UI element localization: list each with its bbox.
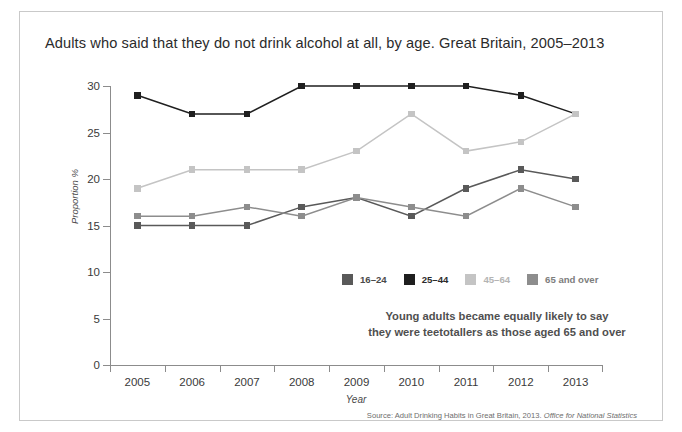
data-point xyxy=(189,166,196,173)
data-point xyxy=(518,139,525,146)
data-point xyxy=(134,185,141,192)
y-tick-label-0: 0 xyxy=(94,359,100,371)
y-tick-10 xyxy=(103,272,110,273)
data-point xyxy=(572,204,579,211)
data-point xyxy=(353,148,360,155)
legend-label: 16–24 xyxy=(360,274,387,285)
x-tick-end xyxy=(602,365,603,372)
x-tick-2006 xyxy=(165,365,166,372)
data-point xyxy=(353,194,360,201)
chart-source: Source: Adult Drinking Habits in Great B… xyxy=(367,411,637,420)
source-prefix: Source: Adult Drinking Habits in Great B… xyxy=(367,411,542,420)
legend-item-3[interactable]: 65 and over xyxy=(527,274,598,285)
series-line xyxy=(137,86,575,114)
legend-swatch-icon xyxy=(342,274,353,285)
x-axis-line xyxy=(110,365,603,366)
series-line xyxy=(137,188,575,216)
x-tick-2008 xyxy=(274,365,275,372)
x-tick-2011 xyxy=(439,365,440,372)
data-point xyxy=(408,204,415,211)
x-tick-2013 xyxy=(548,365,549,372)
y-tick-0 xyxy=(103,365,110,366)
data-point xyxy=(463,148,470,155)
data-point xyxy=(518,92,525,99)
legend-swatch-icon xyxy=(527,274,538,285)
data-point xyxy=(408,213,415,220)
x-tick-label-2005: 2005 xyxy=(125,376,151,388)
data-point xyxy=(244,204,251,211)
x-tick-2012 xyxy=(493,365,494,372)
data-point xyxy=(189,111,196,118)
data-point xyxy=(298,213,305,220)
data-point xyxy=(298,204,305,211)
annotation-line-2: they were teetotallers as those aged 65 … xyxy=(368,325,625,341)
data-point xyxy=(463,185,470,192)
legend-label: 65 and over xyxy=(545,274,598,285)
legend-item-1[interactable]: 25–44 xyxy=(404,274,449,285)
data-point xyxy=(518,185,525,192)
x-tick-label-2007: 2007 xyxy=(234,376,260,388)
data-point xyxy=(463,213,470,220)
data-point xyxy=(189,213,196,220)
series-2 xyxy=(134,111,579,192)
legend-swatch-icon xyxy=(404,274,415,285)
x-tick-label-2012: 2012 xyxy=(508,376,534,388)
data-point xyxy=(518,166,525,173)
y-tick-label-25: 25 xyxy=(87,127,100,139)
chart-legend: 16–2425–4445–6465 and over xyxy=(342,274,598,285)
y-tick-label-10: 10 xyxy=(87,266,100,278)
series-1 xyxy=(134,83,579,117)
y-tick-5 xyxy=(103,319,110,320)
data-point xyxy=(244,222,251,229)
x-tick-label-2009: 2009 xyxy=(344,376,370,388)
y-tick-label-5: 5 xyxy=(94,313,100,325)
legend-label: 25–44 xyxy=(422,274,449,285)
data-point xyxy=(572,111,579,118)
legend-item-2[interactable]: 45–64 xyxy=(465,274,510,285)
series-3 xyxy=(134,185,579,219)
data-point xyxy=(298,166,305,173)
x-tick-label-2010: 2010 xyxy=(398,376,424,388)
y-tick-label-15: 15 xyxy=(87,220,100,232)
legend-swatch-icon xyxy=(465,274,476,285)
data-point xyxy=(572,176,579,183)
x-tick-label-2006: 2006 xyxy=(179,376,205,388)
data-point xyxy=(463,83,470,90)
data-point xyxy=(408,83,415,90)
x-tick-label-2011: 2011 xyxy=(454,376,479,388)
y-tick-label-30: 30 xyxy=(87,80,100,92)
legend-label: 45–64 xyxy=(483,274,510,285)
data-point xyxy=(353,83,360,90)
data-point xyxy=(134,213,141,220)
y-axis-label: Proportion % xyxy=(69,169,80,224)
y-tick-15 xyxy=(103,226,110,227)
chart-title: Adults who said that they do not drink a… xyxy=(45,35,605,51)
source-publisher: Office for National Statistics xyxy=(544,411,637,420)
data-point xyxy=(244,111,251,118)
y-tick-20 xyxy=(103,179,110,180)
x-tick-2005 xyxy=(110,365,111,372)
y-tick-30 xyxy=(103,86,110,87)
x-tick-2009 xyxy=(329,365,330,372)
y-tick-label-20: 20 xyxy=(87,173,100,185)
legend-item-0[interactable]: 16–24 xyxy=(342,274,387,285)
x-tick-2007 xyxy=(220,365,221,372)
data-point xyxy=(189,222,196,229)
annotation-line-1: Young adults became equally likely to sa… xyxy=(368,309,625,325)
x-axis-label: Year xyxy=(346,394,367,405)
data-point xyxy=(134,92,141,99)
x-tick-label-2013: 2013 xyxy=(563,376,589,388)
data-point xyxy=(134,222,141,229)
x-tick-2010 xyxy=(384,365,385,372)
data-point xyxy=(408,111,415,118)
x-tick-label-2008: 2008 xyxy=(289,376,315,388)
chart-annotation: Young adults became equally likely to sa… xyxy=(368,309,625,340)
data-point xyxy=(298,83,305,90)
chart-figure: Adults who said that they do not drink a… xyxy=(19,11,663,421)
y-tick-25 xyxy=(103,133,110,134)
data-point xyxy=(244,166,251,173)
